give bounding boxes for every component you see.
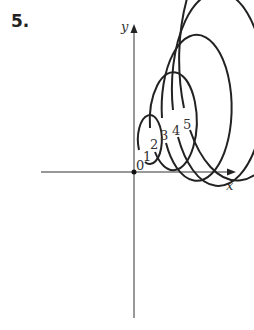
y-axis-arrow-icon xyxy=(131,24,138,33)
y-axis-label: y xyxy=(120,19,129,34)
level-curves xyxy=(138,0,254,186)
contour-map: x y 0 1 2 3 4 5 xyxy=(0,0,254,330)
x-axis-arrow-icon xyxy=(227,169,236,176)
axes xyxy=(41,31,230,318)
level-label-3: 3 xyxy=(160,128,168,143)
level-curve-4 xyxy=(172,0,254,186)
level-label-2: 2 xyxy=(150,137,158,152)
level-label-5: 5 xyxy=(183,117,191,132)
level-label-4: 4 xyxy=(172,123,180,138)
